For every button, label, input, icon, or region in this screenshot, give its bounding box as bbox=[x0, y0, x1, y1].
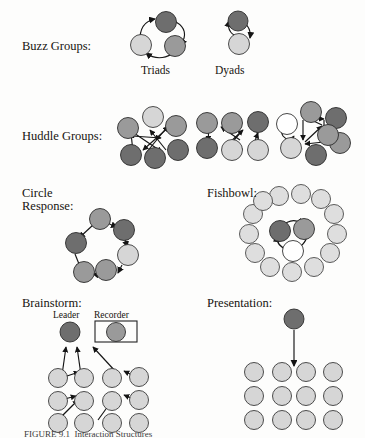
node-fishbowl-inner-3 bbox=[283, 241, 304, 262]
diagram-presentation bbox=[245, 309, 343, 430]
diagram-huddle-3 bbox=[277, 102, 351, 166]
node-circle-6 bbox=[74, 262, 95, 283]
node-triad-1 bbox=[156, 12, 177, 33]
node-huddle1-2 bbox=[118, 118, 139, 139]
diagram-brainstorm bbox=[49, 321, 149, 433]
node-fishbowl-outer bbox=[305, 258, 324, 277]
caption-triads: Triads bbox=[141, 64, 170, 76]
node-brainstorm-participant bbox=[130, 368, 149, 387]
node-huddle3-5 bbox=[281, 138, 302, 159]
node-brainstorm-participant bbox=[103, 392, 122, 411]
node-huddle1-6 bbox=[145, 148, 166, 169]
diagram-circle-response bbox=[66, 209, 139, 283]
node-huddle2-1 bbox=[197, 113, 218, 134]
node-dyad-2 bbox=[229, 34, 250, 55]
node-presenter bbox=[284, 309, 304, 329]
node-circle-4 bbox=[96, 260, 117, 281]
node-brainstorm-recorder bbox=[107, 323, 126, 342]
diagram-layer bbox=[0, 0, 365, 438]
node-fishbowl-outer bbox=[325, 205, 344, 224]
node-brainstorm-participant bbox=[49, 369, 68, 388]
node-audience bbox=[245, 387, 264, 406]
node-audience bbox=[324, 387, 343, 406]
node-dyad-1 bbox=[228, 11, 248, 31]
node-audience bbox=[245, 363, 264, 382]
node-audience bbox=[297, 363, 316, 382]
diagram-triads bbox=[131, 12, 186, 58]
node-huddle2-2 bbox=[222, 113, 243, 134]
node-huddle2-6 bbox=[248, 140, 269, 161]
node-fishbowl-inner-2 bbox=[294, 219, 315, 240]
node-audience bbox=[324, 363, 343, 382]
node-brainstorm-participant bbox=[75, 392, 94, 411]
node-huddle1-1 bbox=[143, 107, 164, 128]
node-audience bbox=[245, 411, 264, 430]
node-circle-1 bbox=[90, 209, 111, 230]
node-huddle2-3 bbox=[248, 112, 269, 133]
diagram-huddle-1 bbox=[118, 107, 189, 169]
row-label-huddle-groups: Huddle Groups: bbox=[22, 130, 102, 143]
node-audience bbox=[273, 411, 292, 430]
node-fishbowl-outer bbox=[321, 244, 340, 263]
node-brainstorm-participant bbox=[103, 369, 122, 388]
node-huddle3-4 bbox=[306, 145, 327, 166]
row-label-presentation: Presentation: bbox=[207, 297, 272, 310]
node-huddle2-4 bbox=[197, 138, 218, 159]
node-audience bbox=[324, 411, 343, 430]
node-huddle2-5 bbox=[222, 140, 243, 161]
node-huddle3-1 bbox=[301, 102, 322, 123]
node-fishbowl-outer bbox=[246, 244, 265, 263]
node-audience bbox=[297, 387, 316, 406]
node-brainstorm-participant bbox=[130, 391, 149, 410]
node-fishbowl-outer bbox=[283, 263, 302, 282]
node-circle-3 bbox=[118, 245, 139, 266]
node-huddle3-7 bbox=[318, 125, 339, 146]
diagram-dyads bbox=[228, 11, 250, 55]
figure-canvas: Buzz Groups: bbox=[0, 0, 365, 438]
node-huddle1-5 bbox=[121, 145, 142, 166]
node-brainstorm-leader bbox=[60, 322, 80, 342]
node-circle-2 bbox=[114, 220, 135, 241]
node-audience bbox=[273, 363, 292, 382]
node-fishbowl-outer bbox=[240, 225, 259, 244]
role-label-recorder: Recorder bbox=[94, 311, 129, 321]
row-label-circle-response: Circle Response: bbox=[22, 187, 73, 213]
node-fishbowl-outer bbox=[292, 185, 311, 204]
row-label-brainstorm: Brainstorm: bbox=[22, 297, 82, 310]
node-fishbowl-outer bbox=[328, 225, 347, 244]
node-huddle3-6 bbox=[277, 114, 298, 135]
node-triad-3 bbox=[165, 36, 186, 57]
node-huddle1-3 bbox=[166, 116, 187, 137]
row-label-fishbowl: Fishbowl: bbox=[207, 187, 257, 200]
figure-caption: FIGURE 9.1 Interaction Structures bbox=[24, 430, 152, 438]
diagram-huddle-2 bbox=[197, 112, 269, 161]
node-audience bbox=[297, 411, 316, 430]
node-fishbowl-inner-1 bbox=[270, 221, 291, 242]
node-fishbowl-outer bbox=[261, 258, 280, 277]
node-circle-5 bbox=[66, 233, 87, 254]
node-huddle1-4 bbox=[168, 140, 189, 161]
role-label-leader: Leader bbox=[53, 311, 79, 321]
node-triad-2 bbox=[131, 35, 152, 56]
node-brainstorm-participant bbox=[49, 392, 68, 411]
caption-dyads: Dyads bbox=[215, 64, 244, 76]
node-audience bbox=[273, 387, 292, 406]
node-fishbowl-outer bbox=[312, 190, 331, 209]
node-brainstorm-participant bbox=[75, 369, 94, 388]
